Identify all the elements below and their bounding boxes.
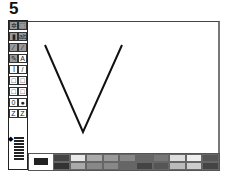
- drawing-canvas[interactable]: [28, 21, 220, 153]
- tool-filled-polygon[interactable]: Z: [18, 109, 27, 118]
- drawing-svg: [28, 22, 220, 154]
- line-width-option[interactable]: [14, 137, 24, 139]
- tool-filled-ellipse[interactable]: ●: [18, 98, 27, 107]
- line-width-option[interactable]: [14, 152, 24, 154]
- tool-rectangle[interactable]: □: [9, 76, 18, 85]
- color-swatch[interactable]: [119, 154, 136, 162]
- color-swatch[interactable]: [153, 154, 170, 162]
- line-width-option[interactable]: [14, 143, 24, 145]
- tool-rounded-rectangle[interactable]: □: [9, 87, 18, 96]
- color-swatch[interactable]: [169, 162, 186, 170]
- color-swatch[interactable]: [136, 154, 153, 162]
- tool-eraser[interactable]: ▮: [9, 32, 18, 41]
- color-swatch[interactable]: [153, 162, 170, 170]
- tool-line[interactable]: /: [18, 65, 27, 74]
- tool-polygon[interactable]: Z: [9, 109, 18, 118]
- tool-filled-rectangle[interactable]: □: [18, 76, 27, 85]
- color-swatch[interactable]: [103, 162, 120, 170]
- line-width-option[interactable]: [14, 158, 24, 160]
- tool-pick-color[interactable]: ⁄: [9, 43, 18, 52]
- current-color-indicator: [34, 158, 48, 165]
- color-swatch[interactable]: [53, 162, 70, 170]
- tool-pencil[interactable]: ✎: [9, 54, 18, 63]
- tool-fill[interactable]: abc: [18, 32, 27, 41]
- tool-magnifier[interactable]: ⁄: [18, 43, 27, 52]
- color-swatch[interactable]: [202, 154, 219, 162]
- tool-ellipse[interactable]: 0: [9, 98, 18, 107]
- line-width-option[interactable]: [14, 140, 24, 142]
- tool-text[interactable]: A: [18, 54, 27, 63]
- color-swatch[interactable]: [86, 154, 103, 162]
- color-swatch[interactable]: [70, 162, 87, 170]
- tool-free-select[interactable]: ✲: [9, 21, 18, 30]
- line-width-option[interactable]: [14, 146, 24, 148]
- line-width-selector[interactable]: [14, 137, 24, 161]
- color-swatch[interactable]: [70, 154, 87, 162]
- color-swatch[interactable]: [186, 162, 203, 170]
- line-width-option[interactable]: [14, 155, 24, 157]
- figure-number: 5: [9, 0, 18, 18]
- color-swatch[interactable]: [186, 154, 203, 162]
- color-palette: [28, 153, 220, 171]
- tool-filled-rounded-rectangle[interactable]: □: [18, 87, 27, 96]
- v-shape-drawing: [45, 45, 122, 132]
- tool-rect-select[interactable]: ⬚: [18, 21, 27, 30]
- tool-curve[interactable]: ꟾ: [9, 65, 18, 74]
- color-swatch[interactable]: [53, 154, 70, 162]
- line-width-indicator-icon: ◆: [8, 135, 13, 143]
- color-swatch[interactable]: [136, 162, 153, 170]
- color-swatch[interactable]: [169, 154, 186, 162]
- line-width-option[interactable]: [14, 149, 24, 151]
- color-swatch[interactable]: [119, 162, 136, 170]
- color-swatch[interactable]: [86, 162, 103, 170]
- color-swatch[interactable]: [103, 154, 120, 162]
- color-swatch[interactable]: [202, 162, 219, 170]
